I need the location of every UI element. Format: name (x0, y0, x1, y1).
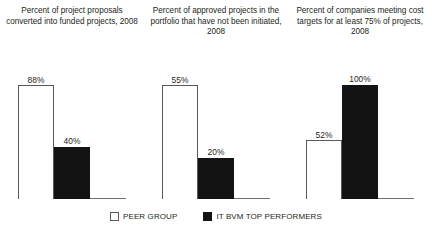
panel-plot-3: 52% 100% (288, 74, 432, 199)
chart-panels: Percent of project proposals converted i… (0, 0, 432, 205)
panel-title-3: Percent of companies meeting cost target… (292, 6, 428, 38)
panel-title-1: Percent of project proposals converted i… (4, 6, 140, 27)
bar-value-label: 52% (316, 130, 333, 140)
panel-title-2: Percent of approved projects in the port… (148, 6, 284, 38)
legend-label: PEER GROUP (123, 212, 177, 221)
chart-legend: PEER GROUP IT BVM TOP PERFORMERS (0, 212, 432, 221)
legend-swatch-icon (110, 212, 119, 221)
bar-top-performers-2: 20% (198, 158, 234, 199)
chart-panel-1: Percent of project proposals converted i… (0, 0, 144, 205)
legend-swatch-icon (203, 212, 212, 221)
bar-value-label: 88% (28, 75, 45, 85)
bar-chart-figure: Percent of project proposals converted i… (0, 0, 432, 249)
panel-plot-1: 88% 40% (0, 74, 144, 199)
legend-item-top-performers: IT BVM TOP PERFORMERS (203, 212, 322, 221)
bar-value-label: 100% (349, 74, 370, 84)
panel-plot-2: 55% 20% (144, 74, 288, 199)
chart-panel-3: Percent of companies meeting cost target… (288, 0, 432, 205)
bar-value-label: 55% (172, 75, 189, 85)
legend-item-peer-group: PEER GROUP (110, 212, 177, 221)
bar-peer-2: 55% (162, 85, 198, 199)
chart-panel-2: Percent of approved projects in the port… (144, 0, 288, 205)
legend-label: IT BVM TOP PERFORMERS (216, 212, 322, 221)
bar-top-performers-3: 100% (342, 85, 378, 199)
bar-value-label: 20% (208, 147, 225, 157)
bar-value-label: 40% (64, 136, 81, 146)
bar-peer-3: 52% (306, 140, 342, 199)
bar-peer-1: 88% (18, 85, 54, 199)
bar-top-performers-1: 40% (54, 147, 90, 199)
